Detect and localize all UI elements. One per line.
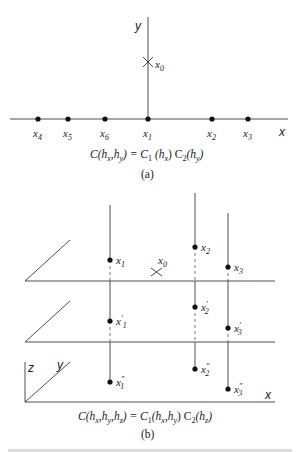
point-x5 (65, 116, 70, 121)
point-b-x3 (225, 264, 230, 269)
label-x2: x2 (206, 127, 216, 142)
point-b-x2-prime (192, 304, 197, 309)
label-x4: x4 (32, 127, 42, 142)
label-b-x2-prime: x′2 (200, 300, 209, 316)
point-x1 (145, 116, 150, 121)
x0-cross-icon-b (151, 268, 162, 276)
label-b-x2: x2 (200, 241, 210, 256)
label-x3: x3 (242, 127, 252, 142)
label-b-x1-dprime: x″1 (115, 375, 125, 391)
point-b-x1-prime (107, 318, 112, 323)
plane-2-y-line (25, 301, 70, 342)
panel-a: y x x0 x4 x5 x6 x1 x2 x3 C(hx,hy) = C1 (… (10, 17, 288, 181)
label-b-x3-prime: x′3 (233, 321, 242, 337)
point-labels-a: x4 x5 x6 x1 x2 x3 (32, 127, 252, 142)
point-b-x1 (107, 257, 112, 262)
label-b-x1: x1 (115, 254, 125, 269)
point-b-x1-dprime (107, 379, 112, 384)
label-x5: x5 (62, 127, 72, 142)
formula-b: C(hx,hy,hz) = C1(hx,hy) C2(hz) (78, 410, 212, 425)
panel-b: z y x (25, 193, 275, 441)
label-x1: x1 (142, 127, 152, 142)
x0-label: x0 (154, 58, 164, 73)
y-axis-label-b: y (56, 358, 64, 372)
label-b-x3-dprime: x″3 (233, 382, 243, 398)
label-b-x2-dprime: x″2 (200, 362, 210, 378)
x0-label-b: x0 (157, 254, 167, 269)
diagram-canvas: y x x0 x4 x5 x6 x1 x2 x3 C(hx,hy) = C1 (… (0, 0, 300, 452)
x-axis-label-b: x (264, 388, 272, 402)
point-b-x3-dprime (225, 386, 230, 391)
label-x6: x6 (99, 127, 109, 142)
point-b-x2 (192, 244, 197, 249)
formula-a: C(hx,hy) = C1 (hx) C2(hy) (90, 148, 204, 163)
point-b-x2-dprime (192, 366, 197, 371)
point-x2 (209, 116, 214, 121)
y-axis-label: y (134, 19, 142, 33)
caption-a: (a) (141, 168, 154, 181)
point-x3 (245, 116, 250, 121)
label-b-x3: x3 (233, 261, 243, 276)
x-axis-label: x (278, 125, 286, 139)
point-x4 (35, 116, 40, 121)
point-x6 (102, 116, 107, 121)
label-b-x1-prime: x′1 (115, 314, 127, 330)
point-b-x3-prime (225, 325, 230, 330)
plane-1-y-line (25, 240, 70, 281)
z-axis-label: z (27, 361, 34, 375)
caption-b: (b) (141, 428, 155, 441)
